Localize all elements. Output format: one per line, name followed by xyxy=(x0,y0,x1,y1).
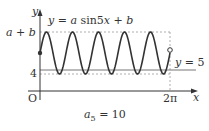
max-label: a + b xyxy=(6,26,36,39)
equation-label: y = a sin5x + b xyxy=(47,14,133,27)
y-axis-label: y xyxy=(31,5,39,18)
sine-curve xyxy=(40,32,170,74)
x-axis-label: x xyxy=(193,91,200,104)
start-point-filled xyxy=(38,51,42,55)
sine-graph: y y = a sin5x + b a + b 4 O y = 5 2π x a… xyxy=(0,0,209,131)
answer-label: a5 = 10 xyxy=(84,108,126,123)
origin-label: O xyxy=(28,92,37,105)
min-label: 4 xyxy=(30,67,37,80)
y-axis-arrow-icon xyxy=(38,9,43,16)
line-label: y = 5 xyxy=(174,56,204,69)
x-end-label: 2π xyxy=(163,92,177,105)
end-point-open xyxy=(168,48,173,53)
